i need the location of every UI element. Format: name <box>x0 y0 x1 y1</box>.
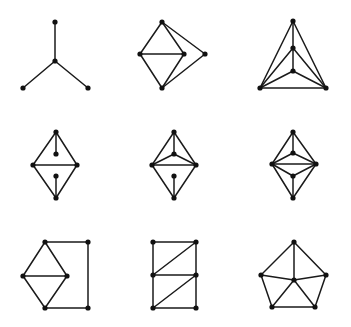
graph-vertex <box>85 239 90 244</box>
graph-vertex <box>290 129 295 134</box>
graph-vertex <box>290 45 295 50</box>
graph-edge <box>152 165 174 198</box>
graph-edge <box>23 242 45 276</box>
graph-vertex <box>159 85 164 90</box>
graph-edge <box>140 22 162 54</box>
graph-vertex <box>20 85 25 90</box>
graph-vertex <box>85 305 90 310</box>
graph-vertex <box>269 161 274 166</box>
graph-edge <box>261 275 294 280</box>
graph-figure <box>0 0 351 327</box>
graph-7 <box>20 239 90 310</box>
graph-8 <box>150 239 198 310</box>
graph-vertex <box>290 18 295 23</box>
graph-9 <box>258 239 328 309</box>
graph-edge <box>261 242 294 275</box>
graph-vertex <box>30 162 35 167</box>
graph-vertex <box>159 19 164 24</box>
graph-edge <box>153 242 196 275</box>
graph-vertex <box>257 85 262 90</box>
graph-vertex <box>269 304 274 309</box>
graph-edge <box>174 165 196 198</box>
graph-edge <box>272 164 293 198</box>
graph-vertex <box>150 239 155 244</box>
graph-vertex <box>64 273 69 278</box>
graph-vertex <box>290 150 295 155</box>
graph-vertex <box>150 272 155 277</box>
graph-vertex <box>171 151 176 156</box>
graph-vertex <box>290 195 295 200</box>
graph-edge <box>23 276 45 308</box>
graph-vertex <box>313 161 318 166</box>
graph-vertex <box>181 51 186 56</box>
graph-edge <box>315 275 326 307</box>
graph-6 <box>269 129 318 200</box>
graph-edge <box>140 54 162 88</box>
graph-edge <box>45 276 67 308</box>
graph-edge <box>294 280 315 307</box>
graph-1 <box>20 19 90 90</box>
graph-vertex <box>85 85 90 90</box>
graph-vertex <box>53 151 58 156</box>
graph-vertex <box>193 239 198 244</box>
graph-vertex <box>20 273 25 278</box>
graph-edge <box>261 275 272 307</box>
graph-vertex <box>202 51 207 56</box>
graph-edge <box>33 132 56 165</box>
graph-edge <box>153 275 196 308</box>
graph-vertex <box>312 304 317 309</box>
graph-vertex <box>52 19 57 24</box>
graph-edge <box>272 280 294 307</box>
graph-vertex <box>171 195 176 200</box>
graph-edge <box>162 22 205 54</box>
graph-2 <box>137 19 207 90</box>
graph-edge <box>23 61 55 88</box>
graph-vertex <box>53 195 58 200</box>
graph-vertex <box>291 239 296 244</box>
graph-vertex <box>290 173 295 178</box>
graph-vertex <box>193 272 198 277</box>
graph-3 <box>257 18 328 90</box>
graph-grid-svg <box>0 0 351 327</box>
graph-edge <box>293 164 316 198</box>
graph-edge <box>294 242 326 275</box>
graph-vertex <box>171 173 176 178</box>
graph-edge <box>294 275 326 280</box>
graph-vertex <box>193 305 198 310</box>
graph-vertex <box>323 272 328 277</box>
graph-edge <box>162 54 184 88</box>
graph-edge <box>45 242 67 276</box>
graph-edge <box>56 165 77 198</box>
graph-vertex <box>193 162 198 167</box>
graph-edge <box>55 61 88 88</box>
graph-vertex <box>53 173 58 178</box>
graph-edge <box>162 22 184 54</box>
graph-vertex <box>171 129 176 134</box>
graph-5 <box>149 129 198 200</box>
graph-edge <box>162 54 205 88</box>
graph-vertex <box>137 51 142 56</box>
graph-vertex <box>52 58 57 63</box>
graph-vertex <box>290 68 295 73</box>
graph-vertex <box>42 239 47 244</box>
graph-edge <box>33 165 56 198</box>
graph-vertex <box>74 162 79 167</box>
graph-vertex <box>150 305 155 310</box>
graph-vertex <box>291 277 296 282</box>
graph-vertex <box>323 85 328 90</box>
graph-edge <box>56 132 77 165</box>
graph-vertex <box>53 129 58 134</box>
graph-4 <box>30 129 79 200</box>
graph-vertex <box>42 305 47 310</box>
graph-vertex <box>149 162 154 167</box>
graph-vertex <box>258 272 263 277</box>
